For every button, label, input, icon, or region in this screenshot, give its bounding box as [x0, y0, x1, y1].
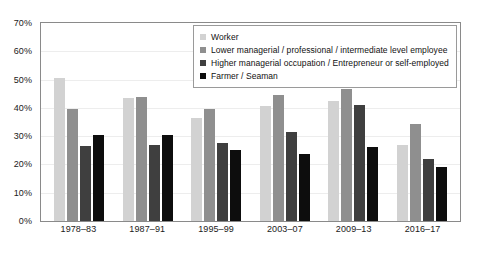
bar — [299, 154, 310, 221]
bar — [397, 145, 408, 221]
x-axis-tick-label: 2009–13 — [326, 224, 382, 244]
y-axis-tick-label: 20% — [14, 159, 32, 169]
legend-swatch-icon — [200, 34, 206, 40]
bar — [123, 98, 134, 221]
bar — [328, 101, 339, 221]
bar — [136, 97, 147, 221]
bar-group — [123, 23, 173, 221]
legend-label: Worker — [211, 32, 239, 42]
y-axis-tick-label: 60% — [14, 46, 32, 56]
bar — [260, 106, 271, 221]
bar — [410, 124, 421, 221]
legend-label: Farmer / Seaman — [211, 71, 278, 81]
legend-item: Higher managerial occupation / Entrepren… — [200, 56, 449, 69]
bar — [354, 105, 365, 221]
legend-item: Lower managerial / professional / interm… — [200, 43, 449, 56]
y-axis-tick-label: 70% — [14, 18, 32, 28]
legend-item: Farmer / Seaman — [200, 69, 449, 82]
y-axis: 70%60%50%40%30%20%10%0% — [0, 22, 36, 222]
y-axis-tick-label: 0% — [19, 216, 32, 226]
bar — [191, 118, 202, 221]
bar — [436, 167, 447, 221]
y-axis-tick-label: 30% — [14, 131, 32, 141]
legend-swatch-icon — [200, 47, 206, 53]
chart-legend: WorkerLower managerial / professional / … — [193, 25, 457, 88]
bar — [230, 150, 241, 221]
x-axis-tick-label: 1978–83 — [50, 224, 106, 244]
bar — [67, 109, 78, 221]
bar — [423, 159, 434, 221]
bar — [80, 146, 91, 221]
bar — [367, 147, 378, 221]
legend-swatch-icon — [200, 73, 206, 79]
x-axis-tick-label: 1987–91 — [119, 224, 175, 244]
x-axis-tick-label: 2003–07 — [257, 224, 313, 244]
legend-label: Lower managerial / professional / interm… — [211, 45, 447, 55]
y-axis-tick-label: 40% — [14, 103, 32, 113]
bar — [149, 145, 160, 221]
bar — [273, 95, 284, 221]
bar — [204, 109, 215, 221]
bar — [217, 143, 228, 221]
bar — [93, 135, 104, 221]
y-axis-tick-label: 50% — [14, 75, 32, 85]
bar — [341, 89, 352, 221]
bar — [286, 132, 297, 221]
x-axis: 1978–831987–911995–992003–072009–132016–… — [40, 224, 461, 244]
bar-chart: 70%60%50%40%30%20%10%0% 1978–831987–9119… — [0, 0, 481, 259]
bar-group — [54, 23, 104, 221]
bar — [162, 135, 173, 221]
legend-swatch-icon — [200, 60, 206, 66]
legend-label: Higher managerial occupation / Entrepren… — [211, 58, 449, 68]
bar — [54, 78, 65, 221]
x-axis-tick-label: 1995–99 — [188, 224, 244, 244]
legend-item: Worker — [200, 30, 449, 43]
x-axis-tick-label: 2016–17 — [395, 224, 451, 244]
y-axis-tick-label: 10% — [14, 188, 32, 198]
